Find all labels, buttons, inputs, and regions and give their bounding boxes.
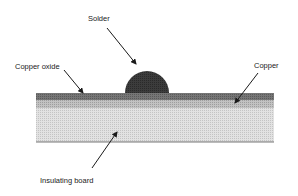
solder-arrow	[107, 28, 136, 64]
copper-oxide-label: Copper oxide	[15, 62, 60, 71]
copper-oxide-arrow	[64, 70, 83, 93]
solder-wetting-diagram: Solder Copper oxide Copper Insulating bo…	[0, 0, 298, 196]
insulating-board-layer	[36, 108, 274, 142]
copper-layer	[36, 100, 274, 108]
solder-label: Solder	[88, 14, 110, 23]
insulating-board-label: Insulating board	[40, 176, 93, 185]
solder-ball	[125, 71, 169, 93]
copper-label: Copper	[254, 61, 279, 70]
